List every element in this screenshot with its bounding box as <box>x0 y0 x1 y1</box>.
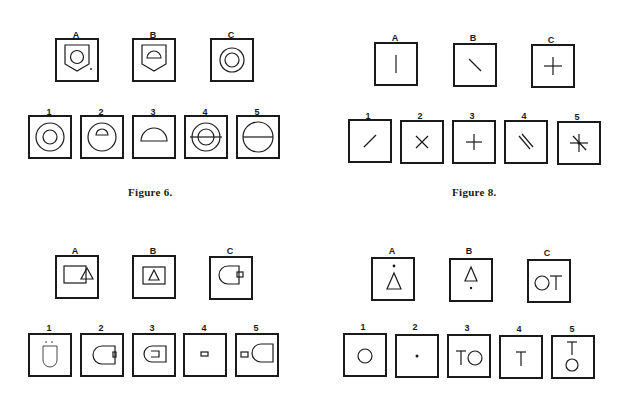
circle-t-icon <box>529 261 569 301</box>
figure-bottom-right: A B C 1 2 3 4 5 <box>0 0 622 410</box>
stimulus-label-c: C <box>527 248 567 258</box>
option-label-3: 3 <box>447 323 487 333</box>
stimulus-label-b: B <box>449 246 489 256</box>
option-label-4: 4 <box>499 324 539 334</box>
dot-icon <box>397 336 437 376</box>
option-box-3[interactable] <box>447 334 491 378</box>
stimulus-label-a: A <box>372 246 412 256</box>
t-above-circle-icon <box>553 337 593 377</box>
stimulus-box-c <box>527 259 571 303</box>
circle-icon <box>345 335 385 375</box>
dot-triangle-icon <box>373 259 413 299</box>
option-box-2[interactable] <box>395 334 439 378</box>
stimulus-box-b <box>449 258 493 302</box>
stimulus-box-a <box>371 257 415 301</box>
option-label-2: 2 <box>395 322 435 332</box>
option-box-4[interactable] <box>499 335 543 379</box>
t-icon <box>501 337 541 377</box>
option-box-1[interactable] <box>343 333 387 377</box>
triangle-dot-icon <box>451 260 491 300</box>
t-circle-icon <box>449 336 489 376</box>
option-label-1: 1 <box>343 322 383 332</box>
option-label-5: 5 <box>552 324 592 334</box>
option-box-5[interactable] <box>551 335 595 379</box>
